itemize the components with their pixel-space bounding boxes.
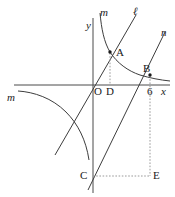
geometry-figure: y x O 6 m m ℓ n A B C D E [0,0,175,197]
x-axis-label: x [161,86,166,97]
point-label-a: A [116,47,124,58]
point-label-c: C [80,170,87,181]
hyperbola-branch-lower [18,91,89,160]
hyperbola-branch-upper [100,13,170,81]
origin-label: O [94,86,102,97]
hyperbola-upper-label: m [100,7,108,18]
line-l-label: ℓ [133,6,138,17]
hyperbola-lower-label: m [7,92,15,103]
point-label-d: D [106,86,114,97]
point-label-b: B [143,63,150,74]
x-tick-label-6: 6 [147,86,153,97]
point-marker-a [108,50,111,53]
line-n [88,32,165,190]
point-label-e: E [153,170,160,181]
y-axis-label: y [86,20,91,31]
line-n-label: n [161,27,167,38]
